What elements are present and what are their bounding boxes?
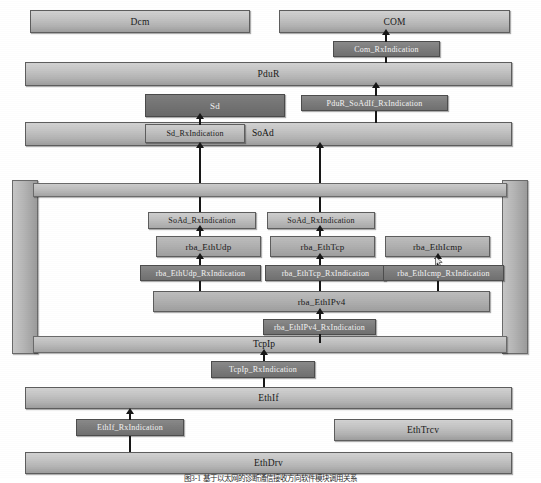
arrowhead-tcpiprx-tcpip [260, 349, 268, 355]
api-tcpip-rxindication-label: TcpIp_RxIndication [229, 365, 297, 374]
tcpip-frame-left-pillar [12, 180, 38, 354]
module-rba-ethipv4-label: rba_EthIPv4 [298, 297, 346, 307]
api-sd-rxindication-label: Sd_RxIndication [166, 129, 223, 138]
arrowhead-com-up [382, 29, 390, 35]
arrowhead-tcprx-ethtcp [316, 253, 324, 259]
arrowhead-ethudp-soadrx [196, 225, 204, 231]
module-sd-label: Sd [210, 101, 220, 111]
arrowhead-soadif-pdur [372, 82, 380, 88]
connector-ipv4-udprx [199, 281, 201, 291]
connector-ethdrv-ethifrx [129, 436, 131, 453]
api-com-rxindication[interactable]: Com_RxIndication [333, 41, 440, 57]
arrowhead-sdrx-sd [196, 113, 204, 119]
module-ethdrv-label: EthDrv [254, 458, 283, 468]
module-com-label: COM [383, 17, 405, 27]
connector-soadif-down [375, 111, 377, 123]
arrowhead-soad-udp [196, 142, 204, 148]
api-sd-rxindication[interactable]: Sd_RxIndication [145, 124, 245, 143]
connector-tcpip-udp-stub [199, 197, 201, 213]
module-ethtrcv-label: EthTrcv [407, 425, 439, 435]
figure-caption: 图3-1 基于以太网的诊断通信接收方向软件模块调用关系 [0, 472, 541, 483]
api-rba-ethipv4-rxindication-label: rba_EthIPv4_RxIndication [274, 323, 365, 332]
arrowhead-udprx-ethudp [196, 253, 204, 259]
api-rba-ethudp-rxindication[interactable]: rba_EthUdp_RxIndication [140, 265, 261, 281]
arrowhead-ipv4rx-ipv4 [316, 308, 324, 314]
connector-ipv4-icmprx [437, 281, 439, 291]
api-rba-ethtcp-rxindication[interactable]: rba_EthTcp_RxIndication [265, 265, 386, 281]
module-ethif[interactable]: EthIf [25, 387, 512, 409]
connector-pdur-com [385, 57, 387, 63]
api-tcpip-rxindication[interactable]: TcpIp_RxIndication [211, 361, 315, 378]
api-soad-rxindication-udp-label: SoAd_RxIndication [168, 216, 235, 225]
module-rba-ethtcp-label: rba_EthTcp [301, 242, 345, 252]
connector-ethif-tcpiprx [263, 378, 265, 387]
api-com-rxindication-label: Com_RxIndication [354, 45, 419, 54]
arrowhead-ethifrx-ethif [126, 408, 134, 414]
tcpip-frame-top-bar [33, 183, 507, 197]
module-soad-label: SoAd [252, 128, 274, 138]
connector-tcpipbar-ipv4rx [319, 334, 321, 343]
module-com[interactable]: COM [279, 10, 510, 33]
module-rba-ethudp-label: rba_EthUdp [186, 242, 232, 252]
api-rba-ethudp-rxindication-label: rba_EthUdp_RxIndication [156, 269, 245, 278]
connector-tcpip-tcp-stub [319, 197, 321, 213]
module-sd[interactable]: Sd [145, 94, 285, 117]
module-ethtrcv[interactable]: EthTrcv [334, 419, 512, 441]
module-pdur[interactable]: PduR [25, 62, 512, 86]
api-soad-rxindication-tcp-label: SoAd_RxIndication [287, 216, 354, 225]
connector-soad-into-tcpip-tcp [319, 146, 321, 183]
api-rba-ethicmp-rxindication[interactable]: rba_EthIcmp_RxIndication [383, 265, 504, 281]
connector-soad-into-tcpip-udp [199, 146, 201, 183]
arrowhead-icmprx-ethicmp [434, 253, 442, 259]
api-ethif-rxindication-label: EthIf_RxIndication [97, 423, 163, 432]
tcpip-frame-right-pillar [502, 180, 528, 354]
module-ethif-label: EthIf [258, 393, 279, 403]
api-pdur-soadif-rxindication[interactable]: PduR_SoAdIf_RxIndication [301, 95, 448, 111]
api-rba-ethtcp-rxindication-label: rba_EthTcp_RxIndication [282, 269, 370, 278]
api-pdur-soadif-rxindication-label: PduR_SoAdIf_RxIndication [327, 99, 423, 108]
module-tcpip-label: TcpIp [253, 339, 275, 349]
api-rba-ethipv4-rxindication[interactable]: rba_EthIPv4_RxIndication [263, 319, 376, 335]
module-rba-ethudp[interactable]: rba_EthUdp [156, 236, 261, 257]
module-dcm-label: Dcm [130, 17, 149, 27]
module-pdur-label: PduR [258, 69, 280, 79]
arrowhead-ethtcp-soadrx [316, 225, 324, 231]
module-rba-ethicmp-label: rba_EthIcmp [413, 242, 462, 252]
module-ethdrv[interactable]: EthDrv [25, 452, 512, 474]
module-dcm[interactable]: Dcm [30, 10, 250, 33]
api-rba-ethicmp-rxindication-label: rba_EthIcmp_RxIndication [397, 269, 489, 278]
connector-ipv4-tcprx [319, 281, 321, 291]
api-ethif-rxindication[interactable]: EthIf_RxIndication [76, 419, 184, 436]
arrowhead-soad-tcp [316, 142, 324, 148]
